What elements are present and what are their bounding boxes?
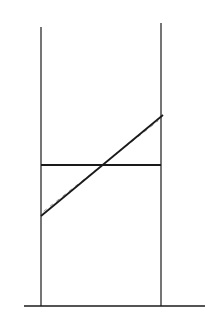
line-diagram xyxy=(0,0,212,317)
